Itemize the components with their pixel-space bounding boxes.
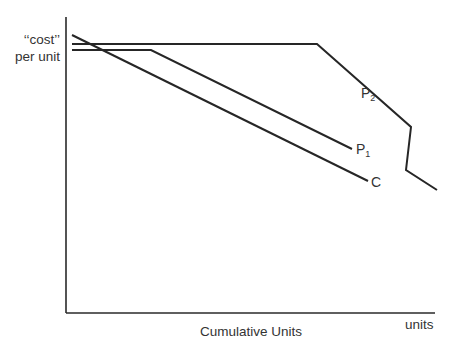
series-label-p2-main: P — [361, 85, 370, 101]
x-axis-end-label: units — [405, 318, 434, 332]
series-label-p1: P1 — [356, 142, 370, 159]
series-line-c — [72, 35, 368, 181]
series-label-p2-sub: 2 — [370, 93, 375, 103]
series-label-p1-main: P — [356, 141, 365, 157]
series-label-p1-sub: 1 — [365, 149, 370, 159]
series-line-p1 — [72, 50, 352, 149]
series-label-c-main: C — [371, 174, 381, 190]
series-label-c: C — [371, 175, 381, 189]
x-axis-label: Cumulative Units — [200, 325, 302, 339]
y-axis-label: ‘‘cost’’ per unit — [6, 31, 60, 65]
y-axis-label-line2: per unit — [6, 48, 60, 65]
series-line-p2 — [72, 44, 437, 190]
y-axis-label-line1: ‘‘cost’’ — [6, 31, 60, 48]
chart-canvas — [0, 0, 456, 349]
series-label-p2: P2 — [361, 86, 375, 103]
